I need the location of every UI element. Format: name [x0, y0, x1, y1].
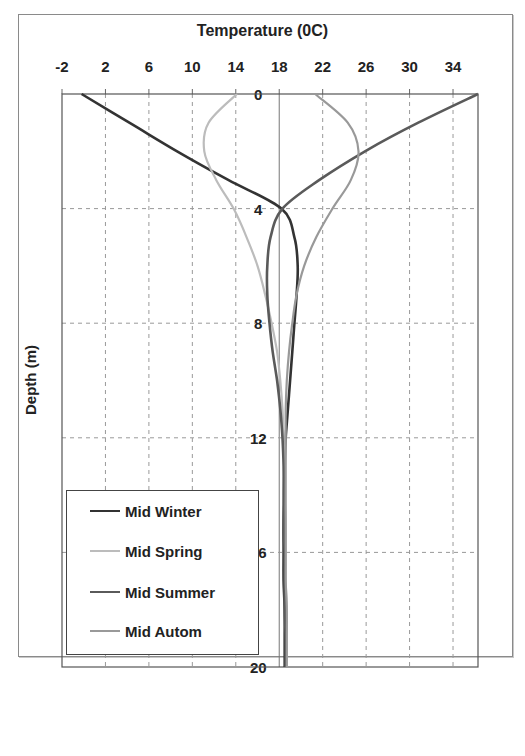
series-mid-autom	[286, 94, 359, 667]
y-tick-label: 8	[254, 315, 262, 332]
legend-swatch-icon	[90, 591, 120, 593]
y-tick-label: 4	[254, 201, 263, 218]
legend-swatch-icon	[90, 510, 120, 512]
x-tick-label: 26	[358, 58, 375, 75]
x-tick-label: 6	[145, 58, 153, 75]
x-tick-label: 18	[271, 58, 288, 75]
y-tick-label: 12	[250, 430, 267, 447]
legend-item-mid-summer: Mid Summer	[90, 582, 215, 602]
legend-item-mid-winter: Mid Winter	[90, 501, 202, 521]
legend-label: Mid Autom	[125, 623, 202, 640]
legend-item-mid-autom: Mid Autom	[90, 621, 202, 641]
legend-swatch-icon	[90, 630, 120, 632]
legend-label: Mid Spring	[125, 543, 203, 560]
legend-label: Mid Winter	[125, 503, 202, 520]
x-tick-label: 10	[184, 58, 201, 75]
x-tick-label: 34	[445, 58, 462, 75]
legend-swatch-icon	[90, 550, 120, 552]
chart-legend: Mid Winter Mid Spring Mid Summer Mid Aut…	[66, 490, 259, 655]
x-tick-label: -2	[55, 58, 68, 75]
x-tick-label: 2	[101, 58, 109, 75]
x-tick-label: 22	[314, 58, 331, 75]
x-tick-label: 14	[227, 58, 244, 75]
series-mid-summer	[267, 94, 478, 667]
legend-label: Mid Summer	[125, 584, 215, 601]
legend-item-mid-spring: Mid Spring	[90, 541, 203, 561]
x-tick-label: 30	[401, 58, 418, 75]
